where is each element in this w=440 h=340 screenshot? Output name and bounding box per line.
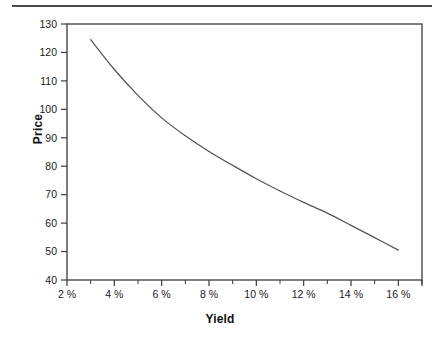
y-axis-tick-label: 110 [40,75,57,87]
x-axis-tick-label: 10 % [244,288,268,300]
y-axis-tick-label: 50 [45,245,57,257]
x-axis-tick-label: 6 % [153,288,171,300]
chart-plot-area: 4050607080901001101201302 %4 %6 %8 %10 %… [0,0,440,340]
y-axis-tick-label: 100 [39,103,57,115]
x-axis-tick-label: 16 % [386,288,410,300]
y-axis-tick-label: 90 [45,132,57,144]
y-axis-tick-label: 130 [39,18,57,30]
y-axis-tick-label: 120 [39,46,57,58]
x-axis-tick-label: 4 % [105,288,123,300]
y-axis-tick-label: 60 [45,217,57,229]
y-axis-tick-label: 70 [45,188,57,200]
price-yield-curve [91,40,399,250]
x-axis-title: Yield [0,312,440,326]
x-axis-tick-label: 14 % [339,288,363,300]
x-axis-tick-label: 8 % [200,288,218,300]
price-yield-figure: Price 4050607080901001101201302 %4 %6 %8… [0,0,440,340]
y-axis-tick-label: 80 [45,160,57,172]
x-axis-tick-label: 2 % [58,288,76,300]
x-axis-tick-label: 12 % [292,288,316,300]
y-axis-tick-label: 40 [45,274,57,286]
plot-frame [67,24,422,280]
